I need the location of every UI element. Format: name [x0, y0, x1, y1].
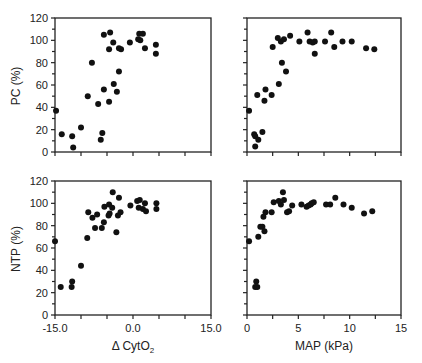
data-point: [137, 37, 143, 43]
data-point: [255, 234, 261, 240]
plot-frame: [247, 18, 401, 152]
data-point: [262, 209, 268, 215]
x-tick-label: 5: [295, 322, 301, 334]
data-point: [118, 209, 124, 215]
data-point: [261, 228, 267, 234]
y-tick-label: 100: [30, 34, 48, 46]
data-point: [98, 137, 104, 143]
data-point: [69, 284, 75, 290]
data-point: [252, 143, 258, 149]
panel-pc-vs-map: [243, 18, 401, 156]
data-point: [127, 203, 133, 209]
data-point: [246, 108, 252, 114]
panel-pc-vs-cyto2: 020406080100120: [30, 12, 211, 158]
data-point: [255, 137, 261, 143]
data-point: [137, 197, 143, 203]
data-point: [84, 235, 90, 241]
data-point: [276, 81, 282, 87]
y-tick-label: 40: [36, 264, 48, 276]
data-point: [109, 205, 115, 211]
data-point: [312, 38, 318, 44]
data-point: [111, 81, 117, 87]
data-point: [95, 101, 101, 107]
data-point: [69, 133, 75, 139]
data-point: [94, 212, 100, 218]
data-point: [283, 69, 289, 75]
data-point: [85, 93, 91, 99]
data-point: [142, 45, 148, 51]
plot-frame: [247, 181, 401, 315]
data-point: [107, 30, 113, 36]
data-point: [116, 195, 122, 201]
data-point: [280, 189, 286, 195]
data-point: [254, 92, 260, 98]
data-point: [289, 203, 295, 209]
data-point: [118, 46, 124, 52]
data-point: [349, 38, 355, 44]
data-point: [113, 229, 119, 235]
data-point: [369, 208, 375, 214]
data-point: [107, 210, 113, 216]
x-tick-label: 0: [244, 322, 250, 334]
y-tick-label: 80: [36, 220, 48, 232]
data-point: [127, 40, 133, 46]
data-point: [59, 131, 65, 137]
data-point: [269, 209, 275, 215]
data-point: [328, 30, 334, 36]
x-tick-label: 10: [344, 322, 356, 334]
data-point: [298, 201, 304, 207]
data-point: [92, 225, 98, 231]
data-point: [331, 44, 337, 50]
data-point: [322, 38, 328, 44]
data-point: [253, 279, 259, 285]
data-point: [85, 209, 91, 215]
data-point: [110, 189, 116, 195]
panel-ntp-vs-cyto2: 020406080100120-15.00.015.0: [30, 175, 222, 334]
data-point: [153, 206, 159, 212]
data-point: [279, 60, 285, 66]
data-point: [99, 225, 105, 231]
data-point: [52, 238, 58, 244]
figure: 020406080100120 020406080100120-15.00.01…: [0, 0, 422, 363]
y-tick-label: 40: [36, 101, 48, 113]
ylabel-ntp: NTP (%): [9, 226, 23, 272]
x-tick-label: 15.0: [200, 322, 221, 334]
data-point: [327, 201, 333, 207]
y-tick-label: 20: [36, 287, 48, 299]
x-tick-label: 15: [395, 322, 407, 334]
xlabel-map: MAP (kPa): [295, 339, 353, 353]
y-tick-label: 100: [30, 197, 48, 209]
data-point: [286, 208, 292, 214]
data-point: [246, 238, 252, 244]
data-point: [371, 46, 377, 52]
data-point: [363, 45, 369, 51]
data-point: [271, 199, 277, 205]
data-point: [332, 195, 338, 201]
x-tick-label: 0.0: [125, 322, 140, 334]
data-point: [262, 86, 268, 92]
data-point: [101, 86, 107, 92]
data-point: [53, 108, 59, 114]
data-point: [296, 38, 302, 44]
data-point: [269, 92, 275, 98]
data-point: [106, 99, 112, 105]
data-point: [110, 40, 116, 46]
data-point: [70, 145, 76, 151]
ylabel-pc: PC (%): [9, 67, 23, 106]
data-point: [101, 32, 107, 38]
data-point: [361, 210, 367, 216]
y-tick-label: 120: [30, 175, 48, 187]
data-point: [153, 42, 159, 48]
data-point: [116, 69, 122, 75]
y-tick-label: 0: [42, 309, 48, 321]
data-point: [281, 197, 287, 203]
plot-frame: [55, 18, 211, 152]
data-point: [69, 279, 75, 285]
data-point: [305, 30, 311, 36]
data-point: [259, 129, 265, 135]
data-point: [349, 205, 355, 211]
data-point: [311, 199, 317, 205]
data-point: [312, 51, 318, 57]
plot-frame: [55, 181, 211, 315]
data-point: [101, 219, 107, 225]
